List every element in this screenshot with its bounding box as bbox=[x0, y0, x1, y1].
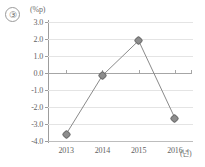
x-tick-mark bbox=[191, 70, 192, 73]
y-tick-label: -3.0 bbox=[31, 120, 43, 129]
plot-area: 3.02.01.00.0-1.0-2.0-3.0-4.0 bbox=[48, 22, 193, 141]
x-axis-unit-label: (년) bbox=[180, 147, 191, 158]
y-tick-mark bbox=[45, 90, 48, 91]
x-tick-label: 2014 bbox=[95, 146, 110, 155]
gridline: -2.0 bbox=[48, 107, 193, 108]
gridline: -1.0 bbox=[48, 90, 193, 91]
y-axis-unit-label: (%p) bbox=[30, 5, 45, 14]
y-tick-label: -4.0 bbox=[31, 137, 43, 146]
item-number-badge: ③ bbox=[5, 7, 20, 22]
y-tick-label: 1.0 bbox=[34, 52, 43, 61]
chart-figure: ③ (%p) 3.02.01.00.0-1.0-2.0-3.0-4.0 2013… bbox=[0, 0, 205, 167]
y-tick-label: 0.0 bbox=[34, 69, 43, 78]
y-tick-label: 3.0 bbox=[34, 18, 43, 27]
y-tick-label: 2.0 bbox=[34, 35, 43, 44]
x-tick-label: 2013 bbox=[59, 146, 74, 155]
gridline: -4.0 bbox=[48, 141, 193, 142]
x-tick-label: 2015 bbox=[131, 146, 146, 155]
zero-gridline: 0.0 bbox=[48, 73, 192, 74]
y-tick-mark bbox=[45, 22, 48, 23]
y-tick-mark bbox=[45, 73, 48, 74]
x-tick-mark bbox=[139, 70, 140, 73]
y-tick-label: -2.0 bbox=[31, 103, 43, 112]
gridline: 1.0 bbox=[48, 56, 193, 57]
y-tick-mark bbox=[45, 39, 48, 40]
gridline: 3.0 bbox=[48, 22, 193, 23]
y-tick-label: -1.0 bbox=[31, 86, 43, 95]
x-tick-mark bbox=[66, 70, 67, 73]
y-tick-mark bbox=[45, 141, 48, 142]
x-tick-mark bbox=[175, 70, 176, 73]
gridline: -3.0 bbox=[48, 124, 193, 125]
y-tick-mark bbox=[45, 107, 48, 108]
y-tick-mark bbox=[45, 56, 48, 57]
gridline: 2.0 bbox=[48, 39, 193, 40]
y-tick-mark bbox=[45, 124, 48, 125]
